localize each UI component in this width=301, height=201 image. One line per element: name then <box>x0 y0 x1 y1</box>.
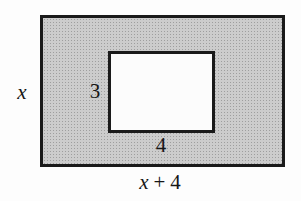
outer-height-label: x <box>10 82 34 103</box>
geometry-diagram: x 3 4 x + 4 <box>0 0 301 201</box>
inner-height-label: 3 <box>84 81 106 102</box>
outer-width-label-variable: x <box>139 172 148 193</box>
inner-rectangle <box>108 51 215 133</box>
inner-width-label: 4 <box>149 135 173 156</box>
outer-width-label-operator: + <box>153 172 165 193</box>
outer-width-label: x + 4 <box>110 172 210 193</box>
outer-width-label-constant: 4 <box>170 172 181 193</box>
